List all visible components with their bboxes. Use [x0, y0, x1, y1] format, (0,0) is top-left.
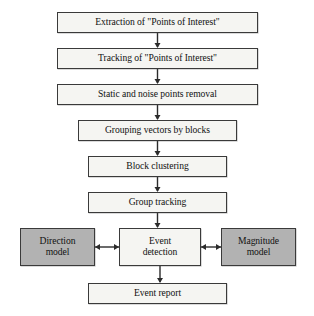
- node-direction-model[interactable]: Direction model: [20, 228, 95, 266]
- node-extraction[interactable]: Extraction of "Points of Interest": [57, 12, 258, 33]
- node-magnitude-model[interactable]: Magnitude model: [221, 228, 296, 266]
- node-removal[interactable]: Static and noise points removal: [57, 84, 258, 105]
- node-tracking[interactable]: Tracking of "Points of Interest": [57, 48, 258, 69]
- node-grouping[interactable]: Grouping vectors by blocks: [78, 120, 237, 141]
- node-event-detection[interactable]: Event detection: [119, 228, 201, 266]
- flowchart-canvas: Extraction of "Points of Interest"Tracki…: [0, 0, 314, 316]
- node-event-report[interactable]: Event report: [88, 283, 227, 304]
- node-block-clustering[interactable]: Block clustering: [88, 156, 227, 177]
- node-group-tracking[interactable]: Group tracking: [88, 192, 227, 213]
